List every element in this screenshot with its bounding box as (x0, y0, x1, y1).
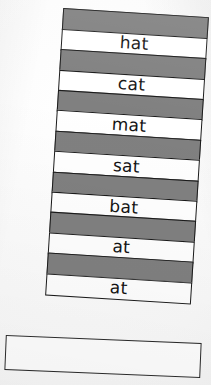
word-label: hat (119, 34, 149, 53)
word-label: mat (111, 116, 147, 135)
word-label: sat (112, 157, 140, 176)
word-label: cat (117, 75, 145, 94)
word-label: at (112, 238, 131, 256)
word-tower: hat cat mat sat bat at at (45, 10, 209, 304)
word-label: at (109, 279, 128, 297)
word-label: bat (109, 197, 139, 216)
